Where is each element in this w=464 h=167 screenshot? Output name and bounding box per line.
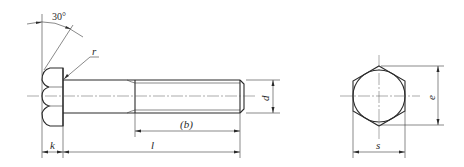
bolt-head (42, 68, 63, 126)
width-across-corners-label: e (425, 95, 437, 100)
radius-arrow (64, 74, 69, 79)
s-arrow-right (399, 151, 405, 154)
side-view: 30° r d (27, 11, 280, 158)
angle-arc (27, 22, 83, 37)
angle-arrow-right (65, 26, 71, 29)
l-arrow-left (63, 151, 69, 154)
head-height-label: k (50, 139, 56, 151)
k-arrow-right (57, 151, 63, 154)
length-label: l (151, 139, 154, 151)
thread-length-label: (b) (180, 118, 193, 131)
d-arrow-top (272, 80, 275, 86)
e-arrow-bottom (437, 119, 440, 125)
bolt-end (240, 80, 244, 113)
k-arrow-left (42, 151, 48, 154)
d-arrow-bottom (272, 107, 275, 113)
s-arrow-left (353, 151, 359, 154)
angle-label: 30° (52, 11, 66, 22)
e-arrow-top (437, 66, 440, 72)
angle-line (44, 25, 73, 70)
l-arrow-right (234, 151, 240, 154)
b-arrow-right (234, 130, 240, 133)
diameter-label: d (259, 95, 271, 101)
radius-label: r (92, 45, 97, 57)
b-arrow-left (135, 130, 141, 133)
width-across-flats-label: s (376, 139, 380, 151)
end-view: e s (340, 55, 444, 158)
bolt-drawing: 30° r d (0, 0, 464, 167)
